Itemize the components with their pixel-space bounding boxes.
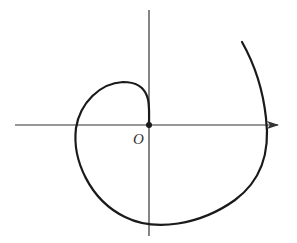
spiral-diagram: O bbox=[0, 0, 297, 243]
origin-point bbox=[146, 122, 152, 128]
spiral-curve bbox=[75, 42, 267, 225]
origin-label: O bbox=[133, 131, 144, 147]
